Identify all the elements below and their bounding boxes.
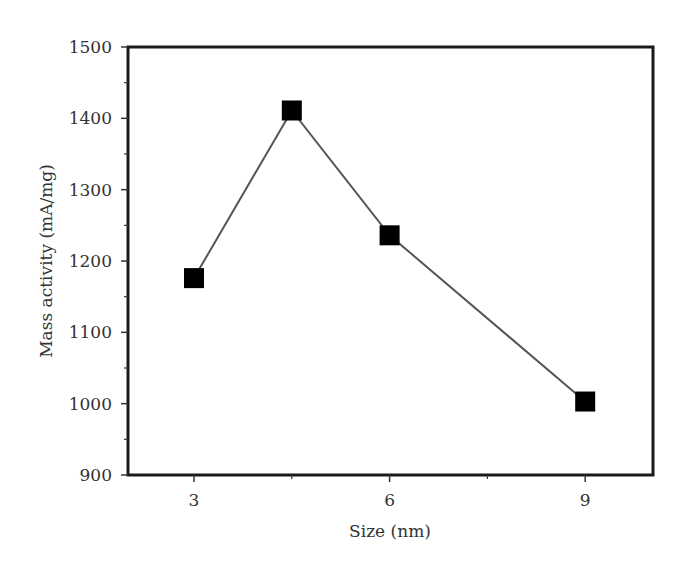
x-axis-label: Size (nm) (349, 521, 431, 541)
y-tick-label: 900 (80, 465, 112, 485)
square-marker (380, 225, 400, 245)
y-tick-label: 1400 (69, 108, 112, 128)
x-tick-label: 9 (580, 490, 591, 510)
y-axis-ticks: 900100011001200130014001500 (69, 37, 128, 485)
plot-area (128, 47, 653, 475)
y-tick-label: 1100 (69, 322, 112, 342)
y-axis-label: Mass activity (mA/mg) (36, 164, 56, 358)
line-chart: 900100011001200130014001500 369 Size (nm… (0, 0, 687, 565)
x-tick-label: 6 (384, 490, 395, 510)
x-axis-ticks: 369 (189, 475, 591, 510)
square-marker (282, 100, 302, 120)
x-tick-label: 3 (189, 490, 200, 510)
y-tick-label: 1300 (69, 180, 112, 200)
y-tick-label: 1200 (69, 251, 112, 271)
y-tick-label: 1000 (69, 394, 112, 414)
square-marker (184, 268, 204, 288)
y-tick-label: 1500 (69, 37, 112, 57)
square-marker (575, 392, 595, 412)
